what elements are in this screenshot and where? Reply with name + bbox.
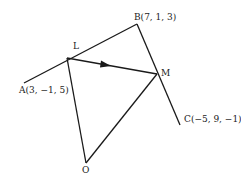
segment-om: [86, 74, 157, 163]
label-a: A(3, −1, 5): [19, 86, 69, 95]
label-l: L: [73, 42, 79, 51]
segment-lm: [67, 58, 157, 74]
label-o: O: [82, 166, 89, 175]
segment-ab: [24, 24, 137, 83]
segment-ol: [67, 58, 86, 163]
label-b: B(7, 1, 3): [134, 13, 176, 22]
label-c: C(−5, 9, −1): [184, 115, 241, 124]
arrow-icon: [100, 61, 111, 68]
segment-bc: [137, 24, 180, 125]
label-m: M: [161, 69, 170, 78]
